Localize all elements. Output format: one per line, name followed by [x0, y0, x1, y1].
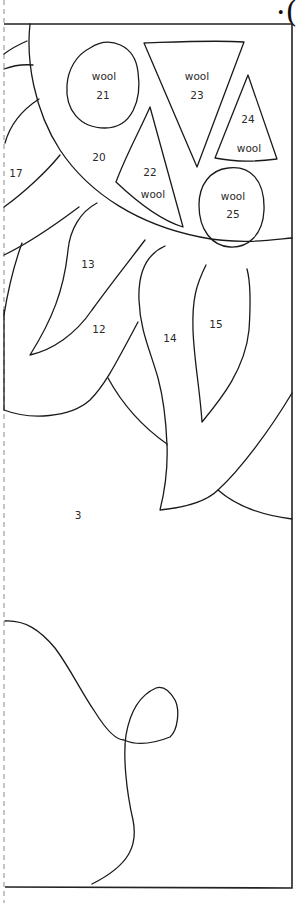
piece-14-number: 14: [163, 332, 177, 344]
piece-21-material: wool: [92, 70, 116, 82]
piece-21-outline: [67, 42, 139, 128]
piece-20-number: 20: [92, 151, 105, 163]
piece-22-material: wool: [141, 188, 165, 200]
pattern-page: ·(: [0, 0, 302, 903]
petal-15-outline: [193, 265, 250, 422]
petal-line: [4, 41, 27, 54]
stem-vine: [5, 621, 178, 884]
piece-25-number: 25: [226, 208, 239, 220]
petal-13-outline: [30, 203, 145, 355]
piece-23-number: 23: [190, 89, 203, 101]
petal-line: [160, 393, 292, 510]
petal-line: [108, 378, 167, 444]
pattern-drawing: ·(: [0, 0, 302, 903]
piece-23-outline: [144, 41, 244, 167]
petal-line: [218, 490, 292, 519]
petal-line: [4, 65, 33, 69]
piece-17-number: 17: [9, 167, 22, 179]
piece-25-material: wool: [221, 190, 245, 202]
petal-14-outline: [139, 246, 167, 445]
piece-22-number: 22: [143, 166, 156, 178]
piece-15-number: 15: [209, 318, 222, 330]
piece-24-number: 24: [241, 113, 255, 125]
flower-center-outline: [29, 24, 292, 241]
piece-12-number: 12: [92, 323, 105, 335]
petal-17-lower: [4, 155, 60, 207]
piece-24-material: wool: [237, 142, 261, 154]
petal-line: [5, 99, 39, 143]
petal-12-outline: [4, 322, 138, 416]
piece-13-number: 13: [81, 258, 94, 270]
piece-21-number: 21: [96, 89, 109, 101]
piece-3-number: 3: [75, 509, 82, 521]
piece-23-material: wool: [185, 70, 209, 82]
